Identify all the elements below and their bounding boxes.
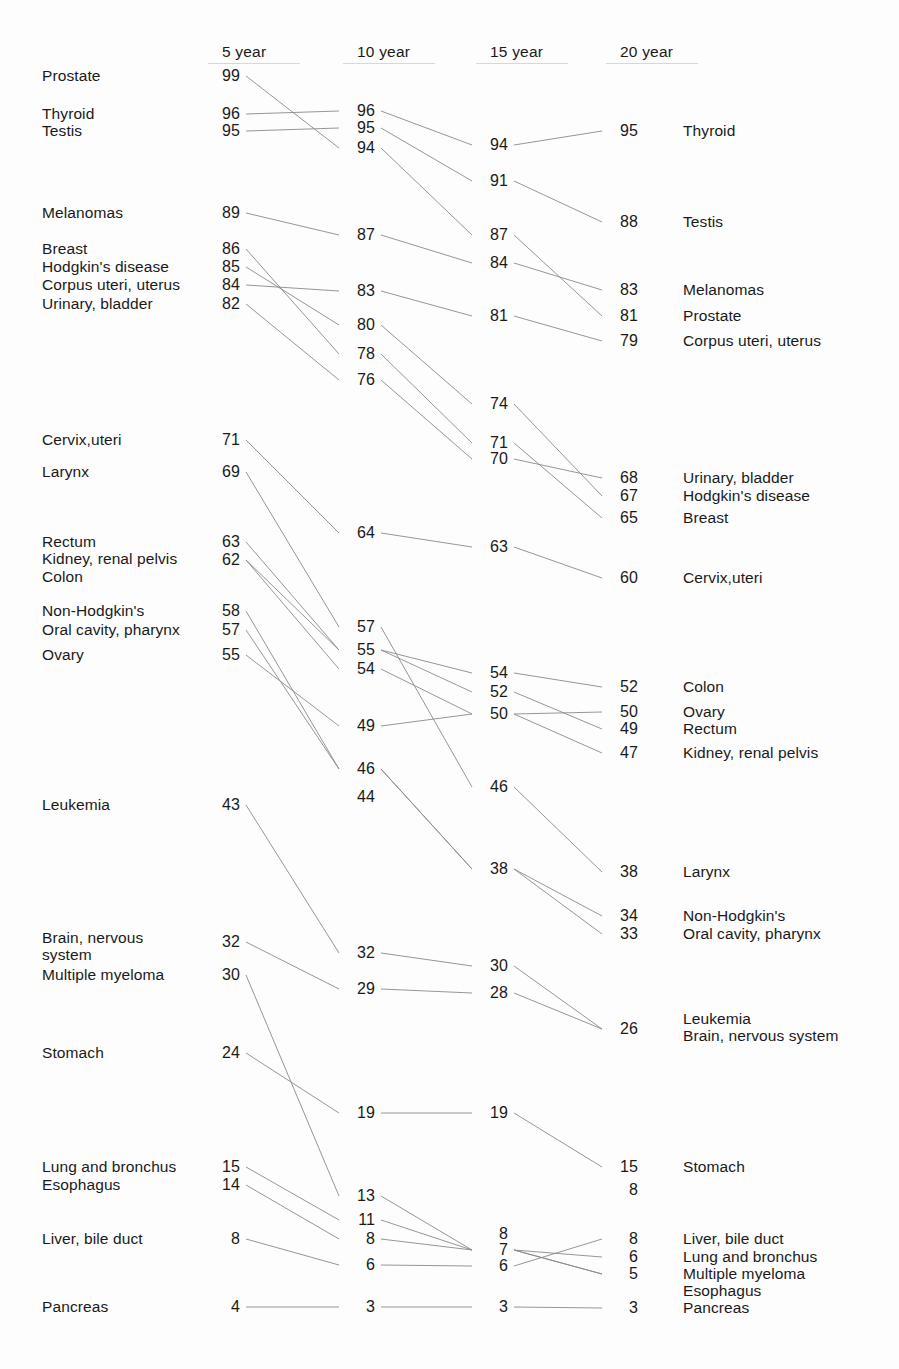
slopegraph-chart: 5 year10 year15 year20 year ProstateThyr… bbox=[0, 0, 899, 1369]
right-label-2: Melanomas bbox=[683, 282, 764, 298]
right-label-10: Ovary bbox=[683, 704, 725, 720]
right-label-15: Oral cavity, pharynx bbox=[683, 926, 821, 942]
right-label-6: Hodgkin's disease bbox=[683, 488, 810, 504]
right-label-16: Leukemia bbox=[683, 1011, 751, 1027]
right-label-19: Liver, bile duct bbox=[683, 1231, 784, 1247]
right-label-20: Lung and bronchus bbox=[683, 1249, 817, 1265]
right-label-7: Breast bbox=[683, 510, 728, 526]
right-label-11: Rectum bbox=[683, 721, 737, 737]
right-label-13: Larynx bbox=[683, 864, 730, 880]
right-label-column: ThyroidTestisMelanomasProstateCorpus ute… bbox=[0, 0, 899, 1369]
right-label-3: Prostate bbox=[683, 308, 742, 324]
right-label-4: Corpus uteri, uterus bbox=[683, 333, 821, 349]
right-label-8: Cervix,uteri bbox=[683, 570, 763, 586]
right-label-21: Multiple myeloma bbox=[683, 1266, 805, 1282]
right-label-1: Testis bbox=[683, 214, 723, 230]
right-label-17: Brain, nervous system bbox=[683, 1028, 838, 1044]
right-label-0: Thyroid bbox=[683, 123, 735, 139]
right-label-18: Stomach bbox=[683, 1159, 745, 1175]
right-label-12: Kidney, renal pelvis bbox=[683, 745, 818, 761]
right-label-14: Non-Hodgkin's bbox=[683, 908, 785, 924]
right-label-22: Esophagus bbox=[683, 1283, 761, 1299]
right-label-23: Pancreas bbox=[683, 1300, 749, 1316]
right-label-5: Urinary, bladder bbox=[683, 470, 794, 486]
right-label-9: Colon bbox=[683, 679, 724, 695]
